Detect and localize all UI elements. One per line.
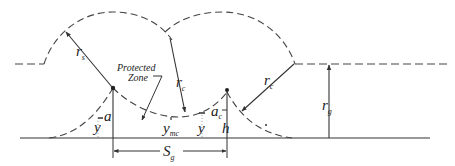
right-sphere-arc (165, 12, 295, 64)
label-h: h (222, 120, 230, 136)
label-r-s: rs (76, 43, 85, 62)
label-s-g: Sg (163, 143, 175, 162)
label-a: a (104, 108, 112, 124)
label-r-c-left: rc (176, 74, 186, 93)
label-r-c-right: rc (264, 72, 274, 91)
left-sphere-arc (44, 12, 172, 64)
protected-zone-arc (113, 88, 227, 117)
label-y-mc: ymc (161, 120, 179, 138)
label-zone: Zone (128, 72, 149, 83)
right-ground-arc (227, 92, 292, 138)
rolling-sphere-diagram: rs Protected Zone rc rc rg a y ymc y ac … (0, 0, 455, 166)
stray-dot (265, 124, 267, 126)
label-y-right: y (196, 120, 205, 136)
label-r-g: rg (322, 97, 332, 116)
rs-radius-arrow (66, 32, 112, 87)
label-a-c: ac (211, 103, 223, 121)
label-y-left: y (92, 119, 101, 135)
right-mast-tip (225, 88, 229, 92)
